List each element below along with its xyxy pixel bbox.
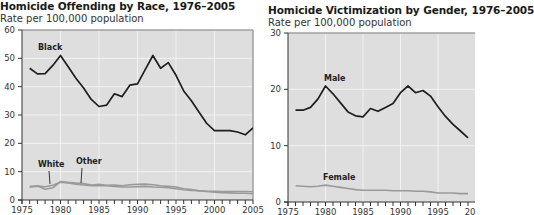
x-tick-label: 1995 (427, 207, 449, 215)
y-tick-label: 0 (276, 197, 281, 207)
x-tick-label: 1985 (88, 205, 110, 215)
y-tick-label: 30 (4, 110, 15, 120)
race-chart: 0102030405060197519801985199019952000200… (4, 25, 264, 215)
series-label-white: White (38, 160, 65, 169)
x-tick-label: 1990 (390, 207, 412, 215)
y-tick-label: 60 (4, 25, 15, 35)
series-label-other: Other (76, 157, 102, 166)
x-tick-label: 1990 (127, 205, 149, 215)
x-tick-label: 1980 (50, 205, 72, 215)
x-tick-label: 2000 (465, 207, 475, 215)
series-label-black: Black (38, 43, 63, 52)
gender-chart: 0102030197519801985199019952000MaleFemal… (270, 28, 475, 215)
series-label-female: Female (323, 173, 356, 182)
x-tick-label: 1995 (165, 205, 187, 215)
y-tick-label: 10 (4, 167, 15, 177)
y-tick-label: 20 (270, 84, 281, 94)
x-tick-label: 1980 (315, 207, 337, 215)
x-tick-label: 2000 (204, 205, 226, 215)
series-label-male: Male (324, 74, 346, 83)
y-tick-label: 30 (270, 28, 281, 38)
x-tick-label: 2005 (242, 205, 264, 215)
y-tick-label: 0 (10, 195, 15, 205)
y-tick-label: 10 (270, 141, 281, 151)
y-tick-label: 20 (4, 138, 15, 148)
y-tick-label: 50 (4, 53, 15, 63)
x-tick-label: 1975 (277, 207, 299, 215)
x-tick-label: 1985 (352, 207, 374, 215)
x-tick-label: 1975 (11, 205, 33, 215)
y-tick-label: 40 (4, 82, 15, 92)
